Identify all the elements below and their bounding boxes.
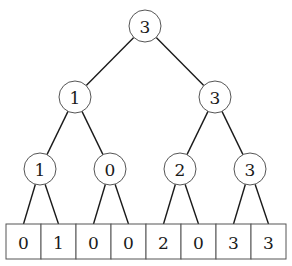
tree-node: 2: [164, 153, 196, 185]
leaf-edge: [185, 184, 198, 224]
node-value: 3: [245, 160, 256, 180]
tree-nodes: 3131023: [24, 10, 266, 185]
leaf-edge: [234, 184, 246, 224]
tree-node: 1: [24, 153, 56, 185]
tree-edge: [86, 37, 134, 85]
tree-edge: [82, 111, 103, 154]
array-cell: 0: [6, 224, 41, 259]
cell-value: 1: [53, 233, 64, 253]
tree-node: 0: [94, 153, 126, 185]
leaf-edge: [45, 184, 58, 224]
leaf-edge: [164, 184, 176, 224]
node-value: 2: [175, 160, 186, 180]
array-cell: 0: [111, 224, 146, 259]
segment-tree-diagram: 3131023 01002033: [0, 0, 292, 266]
cell-value: 3: [228, 233, 239, 253]
array-cell: 0: [76, 224, 111, 259]
array-cell: 1: [41, 224, 76, 259]
tree-node: 3: [199, 81, 231, 113]
tree-edge: [187, 111, 208, 154]
cell-value: 3: [263, 233, 274, 253]
tree-node: 1: [59, 81, 91, 113]
cell-value: 0: [193, 233, 204, 253]
leaf-edge: [24, 184, 36, 224]
array-cell: 0: [181, 224, 216, 259]
leaf-edge: [94, 184, 106, 224]
tree-node: 3: [129, 10, 161, 42]
node-value: 1: [35, 160, 46, 180]
cell-value: 0: [123, 233, 134, 253]
cell-value: 2: [158, 233, 169, 253]
tree-edge: [222, 111, 243, 154]
cell-value: 0: [88, 233, 99, 253]
tree-edge: [156, 37, 204, 85]
tree-edge: [47, 111, 68, 154]
array-cell: 2: [146, 224, 181, 259]
array-cell: 3: [216, 224, 251, 259]
leaf-edge: [115, 184, 128, 224]
leaf-array: 01002033: [6, 224, 286, 259]
node-value: 1: [70, 88, 81, 108]
tree-svg: 3131023 01002033: [0, 0, 292, 266]
node-value: 0: [105, 160, 116, 180]
leaf-edge: [255, 184, 268, 224]
node-value: 3: [210, 88, 221, 108]
cell-value: 0: [18, 233, 29, 253]
node-value: 3: [140, 17, 151, 37]
tree-edges: [24, 37, 269, 224]
array-cell: 3: [251, 224, 286, 259]
tree-node: 3: [234, 153, 266, 185]
